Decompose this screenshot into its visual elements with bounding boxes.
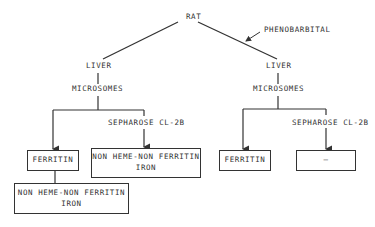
left-column-result-box: NON HEME-NON FERRITIN IRON <box>91 148 201 178</box>
root-node-rat: RAT <box>186 13 201 21</box>
right-column-result-box: — <box>296 150 356 171</box>
right-ferritin-box: FERRITIN <box>219 150 271 171</box>
left-ferritin-text: FERRITIN <box>33 155 74 166</box>
left-ferritin-sub-box: NON HEME-NON FERRITIN IRON <box>14 183 129 214</box>
right-column-result-dash: — <box>323 155 328 166</box>
left-column-label: SEPHAROSE CL-2B <box>108 119 185 127</box>
left-liver-node: LIVER <box>86 62 112 70</box>
left-ferritin-sub-line2: IRON <box>61 199 81 210</box>
left-ferritin-sub-line1: NON HEME-NON FERRITIN <box>18 188 125 199</box>
right-column-label: SEPHAROSE CL-2B <box>292 119 369 127</box>
treatment-label: PHENOBARBITAL <box>264 26 331 34</box>
left-column-result-line2: IRON <box>136 163 156 174</box>
right-ferritin-text: FERRITIN <box>225 155 266 166</box>
right-microsomes-node: MICROSOMES <box>253 85 304 93</box>
left-microsomes-node: MICROSOMES <box>72 85 123 93</box>
right-liver-node: LIVER <box>266 62 292 70</box>
left-column-result-line1: NON HEME-NON FERRITIN <box>92 152 199 163</box>
left-ferritin-box: FERRITIN <box>27 150 79 171</box>
